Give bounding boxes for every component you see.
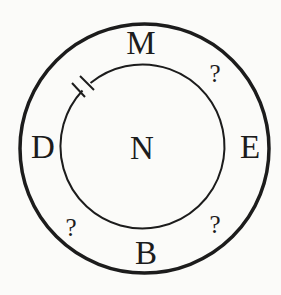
double-tick-mark-icon: [72, 76, 94, 97]
circle-puzzle-diagram: M D N E B ? ? ?: [0, 0, 281, 295]
label-left: D: [31, 131, 55, 164]
label-top: M: [126, 27, 155, 60]
label-bottom-left-unknown: ?: [65, 215, 76, 240]
label-center: N: [130, 132, 154, 165]
label-bottom: B: [135, 237, 157, 270]
label-right: E: [240, 131, 260, 164]
label-bottom-right-unknown: ?: [209, 212, 220, 237]
label-top-right-unknown: ?: [209, 61, 220, 86]
